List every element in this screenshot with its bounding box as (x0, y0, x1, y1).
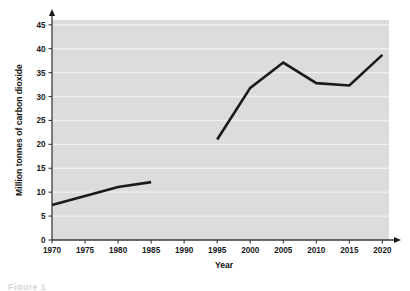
y-tick-label: 0 (41, 236, 46, 245)
x-tick-label: 1980 (109, 246, 128, 255)
y-tick-label: 25 (36, 116, 46, 125)
line-chart: 051015202530354045 197019751980198519901… (0, 0, 410, 291)
x-tick-label: 1995 (208, 246, 227, 255)
caption-stub: Figure 1 (8, 283, 46, 290)
x-tick-label: 1970 (43, 246, 62, 255)
plot-area-background (52, 20, 389, 240)
figure-container: 051015202530354045 197019751980198519901… (0, 0, 410, 291)
y-axis-title: Million tonnes of carbon dioxide (14, 64, 24, 196)
x-tick-label: 2020 (373, 246, 392, 255)
x-tick-label: 1975 (76, 246, 95, 255)
y-tick-label: 45 (36, 21, 46, 30)
x-tick-label: 2010 (307, 246, 326, 255)
x-tick-label: 2005 (274, 246, 293, 255)
x-tick-label: 1990 (175, 246, 194, 255)
y-tick-label: 5 (41, 212, 46, 221)
y-tick-label: 30 (36, 93, 46, 102)
y-tick-label: 20 (36, 140, 46, 149)
y-tick-label: 35 (36, 69, 46, 78)
y-axis-tick-labels: 051015202530354045 (36, 21, 46, 245)
y-tick-label: 15 (36, 164, 46, 173)
x-axis-title: Year (215, 260, 234, 270)
x-tick-label: 2000 (241, 246, 260, 255)
y-tick-label: 10 (36, 188, 46, 197)
x-axis-arrow-icon (394, 237, 401, 243)
y-tick-label: 40 (36, 45, 46, 54)
x-tick-label: 1985 (142, 246, 161, 255)
y-axis-arrow-icon (49, 9, 55, 16)
x-axis-tick-labels: 1970197519801985199019952000200520102015… (43, 246, 392, 255)
x-tick-label: 2015 (340, 246, 359, 255)
